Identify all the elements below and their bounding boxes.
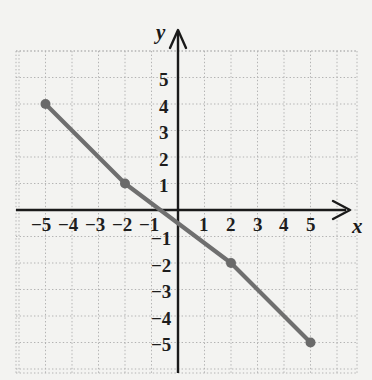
data-point-marker bbox=[120, 179, 130, 189]
coordinate-plane-plot bbox=[0, 0, 372, 380]
y-tick-label-8: −4 bbox=[151, 309, 171, 328]
y-tick-label-1: 4 bbox=[159, 97, 169, 116]
y-tick-label-2: 3 bbox=[159, 123, 169, 142]
x-tick-label-8: 4 bbox=[279, 215, 289, 234]
y-tick-label-6: −2 bbox=[151, 256, 171, 275]
plot-background bbox=[0, 0, 372, 380]
data-point-marker bbox=[226, 258, 236, 268]
y-tick-label-7: −3 bbox=[151, 282, 171, 301]
x-tick-label-6: 2 bbox=[226, 215, 236, 234]
x-tick-label-1: −4 bbox=[58, 215, 78, 234]
x-tick-label-3: −2 bbox=[112, 215, 132, 234]
x-tick-label-9: 5 bbox=[306, 215, 316, 234]
x-tick-label-7: 3 bbox=[253, 215, 263, 234]
y-tick-label-4: 1 bbox=[159, 176, 169, 195]
x-tick-label-5: 1 bbox=[199, 215, 209, 234]
x-tick-label-2: −3 bbox=[85, 215, 105, 234]
y-tick-label-3: 2 bbox=[159, 150, 169, 169]
data-point-marker bbox=[306, 338, 316, 348]
y-axis-label: y bbox=[156, 22, 165, 43]
x-tick-label-0: −5 bbox=[31, 215, 51, 234]
data-point-marker bbox=[41, 99, 51, 109]
y-tick-label-0: 5 bbox=[159, 70, 169, 89]
y-tick-label-5: −1 bbox=[151, 229, 171, 248]
graph-figure: −5−4−3−2−112345 54321−1−2−3−4−5 x y bbox=[0, 0, 372, 380]
x-axis-label: x bbox=[352, 216, 363, 237]
y-tick-label-9: −5 bbox=[151, 335, 171, 354]
